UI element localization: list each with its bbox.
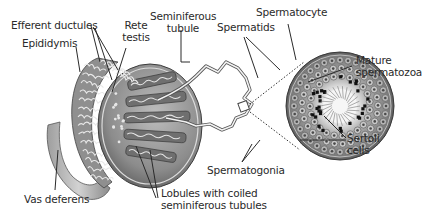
label-seminiferous-tubule-line2: tubule bbox=[150, 22, 216, 34]
spermatid bbox=[363, 104, 366, 107]
leader-epididymis bbox=[76, 47, 80, 72]
rete-dot bbox=[114, 92, 117, 95]
cell-nucleus bbox=[325, 140, 328, 143]
cell-nucleus bbox=[373, 88, 376, 91]
label-lobules-line2: seminiferous tubules bbox=[161, 199, 267, 211]
leader-spermatids-2 bbox=[246, 37, 280, 70]
cell-nucleus bbox=[382, 89, 385, 92]
cell-nucleus bbox=[340, 67, 343, 70]
cell-nucleus bbox=[333, 134, 336, 137]
cell-nucleus bbox=[316, 65, 319, 68]
spermatid bbox=[314, 115, 317, 118]
cell-nucleus bbox=[348, 76, 351, 79]
cell-nucleus bbox=[348, 68, 351, 71]
cell-nucleus bbox=[362, 86, 365, 89]
rete-dot bbox=[112, 125, 115, 128]
spermatid bbox=[321, 129, 324, 132]
cell-nucleus bbox=[368, 100, 371, 103]
cell-nucleus bbox=[331, 59, 334, 62]
cell-nucleus bbox=[376, 112, 379, 115]
cell-nucleus bbox=[293, 97, 296, 100]
label-mature-spermatozoa-line1: Mature bbox=[356, 54, 392, 66]
label-spermatogonia: Spermatogonia bbox=[207, 164, 285, 176]
cell-nucleus bbox=[384, 97, 387, 100]
cell-nucleus bbox=[313, 89, 316, 92]
cell-nucleus bbox=[377, 104, 380, 107]
cell-nucleus bbox=[333, 142, 336, 145]
cell-nucleus bbox=[379, 128, 382, 131]
spermatid bbox=[354, 82, 357, 85]
cell-nucleus bbox=[310, 97, 313, 100]
label-epididymis: Epididymis bbox=[22, 37, 77, 49]
cell-nucleus bbox=[303, 75, 306, 78]
label-sertoli-cells-line2: cells bbox=[347, 144, 370, 156]
spermatid bbox=[349, 80, 352, 83]
label-mature-spermatozoa-line2: spermatozoa bbox=[356, 66, 422, 78]
cell-nucleus bbox=[317, 74, 320, 77]
rete-dot bbox=[121, 127, 124, 130]
cell-nucleus bbox=[373, 120, 376, 123]
cell-nucleus bbox=[325, 78, 328, 81]
cell-nucleus bbox=[347, 59, 350, 62]
cell-nucleus bbox=[318, 83, 321, 86]
cell-nucleus bbox=[295, 120, 298, 123]
cell-nucleus bbox=[323, 61, 326, 64]
cell-nucleus bbox=[382, 120, 385, 123]
cell-nucleus bbox=[385, 105, 388, 108]
cell-nucleus bbox=[301, 101, 304, 104]
cell-nucleus bbox=[323, 148, 326, 151]
cell-nucleus bbox=[331, 150, 334, 153]
cell-nucleus bbox=[303, 134, 306, 137]
cell-nucleus bbox=[299, 82, 302, 85]
spermatid bbox=[316, 91, 319, 94]
cell-nucleus bbox=[295, 89, 298, 92]
cell-nucleus bbox=[324, 70, 327, 73]
cell-nucleus bbox=[366, 92, 369, 95]
cell-nucleus bbox=[369, 127, 372, 130]
spermatid bbox=[358, 117, 361, 120]
cell-nucleus bbox=[362, 123, 365, 126]
leader-spermatocyte bbox=[288, 24, 296, 60]
cell-nucleus bbox=[332, 67, 335, 70]
label-spermatocyte: Spermatocyte bbox=[256, 6, 327, 18]
cell-nucleus bbox=[341, 143, 344, 146]
rete-dot bbox=[117, 114, 120, 117]
rete-dot bbox=[114, 118, 117, 121]
spermatid bbox=[317, 125, 320, 128]
cell-nucleus bbox=[339, 59, 342, 62]
spermatid bbox=[339, 127, 342, 130]
rete-dot bbox=[122, 119, 125, 122]
leader-spermatogonia-2 bbox=[242, 140, 260, 162]
spermatid bbox=[366, 97, 369, 100]
spermatid bbox=[320, 89, 323, 92]
spermatid bbox=[339, 75, 342, 78]
spermatid bbox=[361, 112, 364, 115]
spermatid bbox=[356, 89, 359, 92]
cell-nucleus bbox=[369, 81, 372, 84]
cell-nucleus bbox=[379, 82, 382, 85]
cell-nucleus bbox=[318, 137, 321, 140]
leader-seminiferous bbox=[181, 30, 190, 62]
leader-spermatogonia-1 bbox=[242, 144, 252, 162]
label-sertoli-cells-line1: Sertoli bbox=[347, 132, 379, 144]
cell-nucleus bbox=[366, 116, 369, 119]
label-spermatids: Spermatids bbox=[217, 21, 275, 33]
label-efferent-ductules: Efferent ductules bbox=[11, 19, 97, 31]
rete-dot bbox=[115, 103, 118, 106]
cell-nucleus bbox=[325, 131, 328, 134]
cell-nucleus bbox=[299, 128, 302, 131]
label-lobules-line1: Lobules with coiled bbox=[161, 187, 258, 199]
cell-nucleus bbox=[332, 75, 335, 78]
spermatid bbox=[318, 95, 321, 98]
cell-nucleus bbox=[301, 109, 304, 112]
cell-nucleus bbox=[316, 145, 319, 148]
cell-nucleus bbox=[339, 151, 342, 154]
cell-nucleus bbox=[368, 108, 371, 111]
rete-dot bbox=[117, 117, 120, 120]
cell-nucleus bbox=[293, 113, 296, 116]
label-seminiferous-tubule-line1: Seminiferous bbox=[150, 10, 216, 22]
rete-dot bbox=[118, 140, 121, 143]
cell-nucleus bbox=[309, 69, 312, 72]
leader-spermatids-1 bbox=[244, 37, 258, 78]
rete-dot bbox=[112, 106, 115, 109]
